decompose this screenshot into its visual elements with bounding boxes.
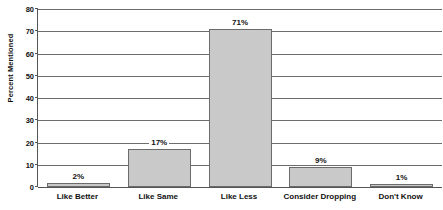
y-axis-tick-mark	[35, 8, 38, 9]
y-axis-tick-label: 70	[26, 27, 34, 36]
y-axis-tick-label: 80	[26, 5, 34, 14]
y-axis-title: Percent Mentioned	[6, 18, 18, 118]
bar-value-label: 71%	[230, 18, 250, 27]
y-axis-tick-label: 40	[26, 94, 34, 103]
chart-title	[0, 0, 443, 5]
y-axis-tick-label: 60	[26, 49, 34, 58]
y-axis-tick-mark	[35, 164, 38, 165]
bar-value-label: 2%	[71, 172, 87, 181]
plot-area: 01020304050607080 2%17%71%9%1%	[37, 9, 441, 187]
bar-value-label: 1%	[394, 173, 410, 182]
bar	[47, 183, 110, 187]
y-axis-tick-mark	[35, 97, 38, 98]
bar-chart: Percent Mentioned 01020304050607080 2%17…	[0, 0, 443, 210]
y-axis-tick-mark	[35, 119, 38, 120]
y-axis-tick-label: 30	[26, 116, 34, 125]
y-axis-tick-mark	[35, 30, 38, 31]
bar	[289, 167, 352, 187]
y-axis-tick-label: 10	[26, 160, 34, 169]
bar	[128, 149, 191, 187]
x-axis-tick-label: Consider Dropping	[284, 192, 356, 201]
gridline	[38, 187, 442, 188]
y-axis-tick-mark	[35, 142, 38, 143]
x-axis-tick-label: Like Better	[57, 192, 98, 201]
bar	[370, 184, 433, 187]
gridline	[38, 9, 442, 10]
y-axis-tick-label: 20	[26, 138, 34, 147]
x-axis-tick-label: Like Less	[221, 192, 257, 201]
y-axis-tick-mark	[35, 75, 38, 76]
x-axis-tick-label: Like Same	[138, 192, 178, 201]
y-axis-tick-label: 50	[26, 71, 34, 80]
bar	[209, 29, 272, 187]
x-axis-tick-label: Don't Know	[379, 192, 423, 201]
y-axis-tick-mark	[35, 186, 38, 187]
y-axis-tick-label: 0	[30, 183, 34, 192]
bar-value-label: 17%	[149, 138, 169, 147]
y-axis-tick-mark	[35, 53, 38, 54]
bar-value-label: 9%	[313, 156, 329, 165]
